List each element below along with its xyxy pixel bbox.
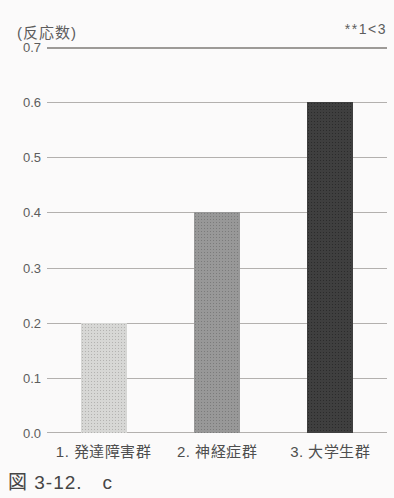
y-tick-label: 0.4	[0, 205, 41, 220]
bar-1	[81, 323, 127, 433]
plot-area	[47, 47, 387, 433]
x-axis-labels: 1. 発達障害群2. 神経症群3. 大学生群	[47, 440, 387, 461]
significance-annotation: **1<3	[345, 21, 387, 37]
x-axis-label: 3. 大学生群	[274, 440, 387, 461]
x-axis-label: 2. 神経症群	[160, 440, 273, 461]
y-axis-tick-labels: 0.70.60.50.40.30.20.10.0	[0, 47, 41, 433]
y-axis-unit-label: (反応数)	[17, 21, 77, 42]
y-tick-label: 0.1	[0, 371, 41, 386]
y-tick-label: 0.7	[0, 40, 41, 55]
gridline	[47, 47, 387, 49]
y-tick-label: 0.5	[0, 150, 41, 165]
bar-2	[194, 212, 240, 433]
y-tick-label: 0.2	[0, 316, 41, 331]
y-tick-label: 0.0	[0, 426, 41, 441]
y-tick-label: 0.3	[0, 261, 41, 276]
bar-3	[307, 102, 353, 433]
figure-caption: 図 3-12. c	[8, 467, 113, 494]
y-tick-label: 0.6	[0, 95, 41, 110]
x-axis-label: 1. 発達障害群	[47, 440, 160, 461]
figure-page: (反応数) **1<3 0.70.60.50.40.30.20.10.0 1. …	[0, 0, 394, 498]
